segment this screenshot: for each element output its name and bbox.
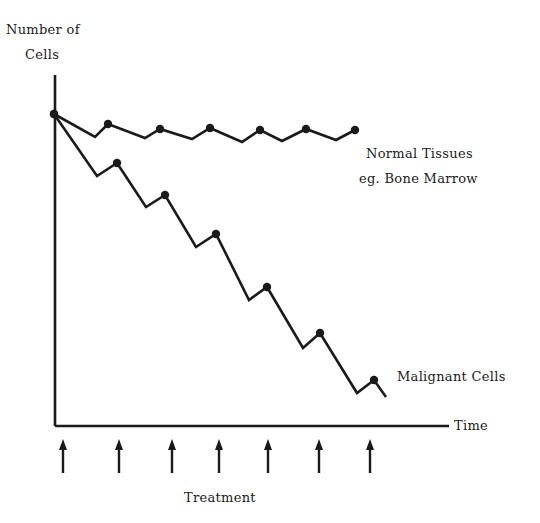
normal-tissues-label-line2: eg. Bone Marrow [359, 171, 478, 186]
malignant-cells-line [54, 114, 386, 397]
chart-canvas [0, 0, 540, 523]
malignant-cells-marker [113, 159, 121, 167]
arrow-up-icon [315, 439, 323, 450]
arrow-up-icon [115, 439, 123, 450]
arrow-up-icon [366, 439, 374, 450]
malignant-cells-marker [161, 191, 169, 199]
treatment-label: Treatment [184, 490, 256, 505]
normal-tissues-marker [351, 126, 359, 134]
x-axis-label: Time [454, 418, 488, 433]
series-layer [50, 110, 386, 397]
y-axis-label-line1: Number of [6, 22, 80, 37]
malignant-cells-marker [50, 110, 58, 118]
malignant-cells-marker [316, 329, 324, 337]
normal-tissues-marker [104, 120, 112, 128]
arrow-up-icon [59, 439, 67, 450]
malignant-cells-label: Malignant Cells [397, 369, 506, 384]
malignant-cells-marker [370, 376, 378, 384]
treatment-arrows [59, 439, 374, 473]
y-axis-label-line2: Cells [25, 47, 59, 62]
arrow-up-icon [215, 439, 223, 450]
normal-tissues-marker [206, 124, 214, 132]
normal-tissues-marker [256, 126, 264, 134]
malignant-cells-marker [263, 283, 271, 291]
normal-tissues-marker [156, 125, 164, 133]
normal-tissues-marker [302, 125, 310, 133]
normal-tissues-label-line1: Normal Tissues [366, 146, 473, 161]
arrow-up-icon [264, 439, 272, 450]
arrow-up-icon [168, 439, 176, 450]
malignant-cells-marker [212, 230, 220, 238]
